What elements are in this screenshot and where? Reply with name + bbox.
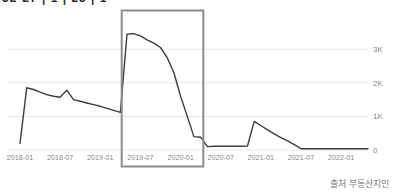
x-tick-label: 2019-07 <box>127 153 153 162</box>
transaction-volume-line-chart: 01K2K3K2018-012018-072019-012019-072020-… <box>0 0 394 193</box>
y-tick-label: 2K <box>373 79 383 88</box>
y-tick-label: 1K <box>373 112 383 121</box>
data-line <box>20 34 368 149</box>
y-tick-label: 0 <box>373 146 378 155</box>
chart-screenshot: 32-27 | 1 | 23 | 1 01K2K3K2018-012018-07… <box>0 0 394 193</box>
x-tick-label: 2018-01 <box>7 153 33 162</box>
x-tick-label: 2018-07 <box>47 153 73 162</box>
x-tick-label: 2019-01 <box>87 153 113 162</box>
y-tick-label: 3K <box>373 45 383 54</box>
x-tick-label: 2020-07 <box>208 153 234 162</box>
x-tick-label: 2021-01 <box>248 153 274 162</box>
x-tick-label: 2020-01 <box>167 153 193 162</box>
x-tick-label: 2022-01 <box>328 153 354 162</box>
source-attribution: 출처 부동산지인 <box>330 177 389 190</box>
x-tick-label: 2021-07 <box>288 153 314 162</box>
